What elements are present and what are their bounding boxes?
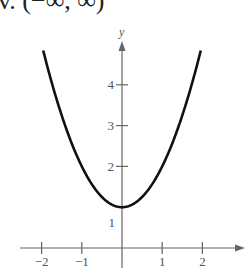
axes: y [20,25,245,268]
y-axis-arrow-icon [119,41,126,51]
y-axis-label: y [118,25,125,39]
function-graph: y −2−1121234 [0,0,246,280]
y-tick-label: 2 [108,159,115,174]
x-axis-arrow-icon [235,245,245,252]
y-tick-label: 4 [108,77,115,92]
y-tick-label: 1 [109,215,116,230]
x-tick-label: −2 [35,254,49,269]
x-tick-label: −1 [75,254,89,269]
ticks: −2−1121234 [35,77,206,269]
y-tick-label: 3 [108,118,115,133]
x-tick-label: 1 [159,254,166,269]
x-tick-label: 2 [199,254,206,269]
